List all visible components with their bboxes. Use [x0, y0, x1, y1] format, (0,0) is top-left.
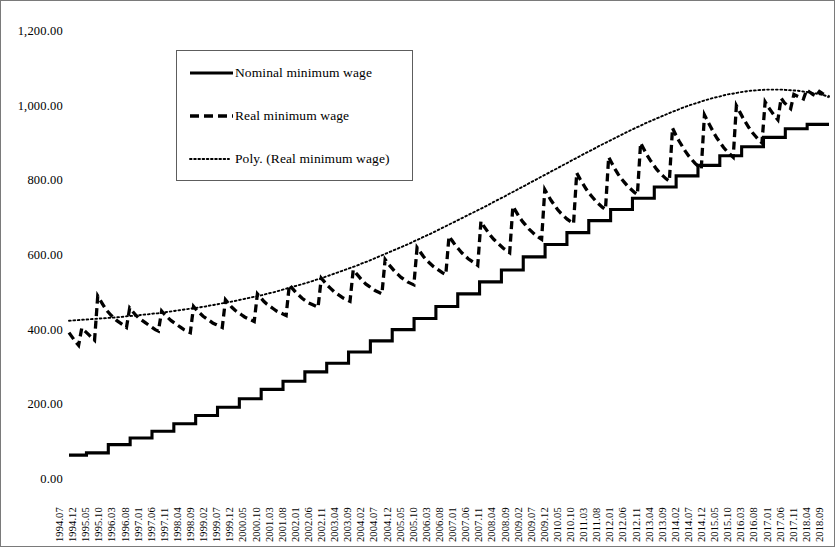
x-axis-tick-label: 2016.03	[735, 507, 746, 542]
x-axis-tick-label: 2002.01	[290, 507, 301, 542]
x-axis-tick-label: 2003.09	[342, 507, 353, 542]
x-axis-tick-label: 2005.05	[395, 507, 406, 542]
legend-label-nominal: Nominal minimum wage	[235, 65, 372, 81]
y-axis-tick-label: 600.00	[9, 248, 63, 263]
chart-plot-area	[1, 1, 835, 547]
x-axis-tick-label: 1998.09	[185, 507, 196, 542]
x-axis-tick-label: 1995.05	[80, 507, 91, 542]
legend-swatch-dotted-line-icon	[189, 152, 235, 166]
y-axis-tick-label: 800.00	[9, 173, 63, 188]
x-axis-tick-label: 2001.08	[277, 507, 288, 542]
x-axis-tick-label: 2005.10	[408, 507, 419, 542]
x-axis-tick-label: 1997.06	[146, 507, 157, 542]
x-axis-tick-label: 1994.07	[54, 507, 65, 542]
x-axis-tick-label: 2015.05	[709, 507, 720, 542]
x-axis-tick-label: 1999.12	[224, 507, 235, 542]
x-axis-tick-label: 2004.07	[368, 507, 379, 542]
x-axis-tick-label: 2014.07	[683, 507, 694, 542]
legend-label-real: Real minimum wage	[235, 108, 349, 124]
x-axis-tick-label: 2002.06	[303, 507, 314, 542]
legend-label-poly: Poly. (Real minimum wage)	[235, 151, 390, 167]
x-axis-tick-label: 2000.10	[251, 507, 262, 542]
x-axis-tick-label: 1995.10	[93, 507, 104, 542]
y-axis-tick-label: 200.00	[9, 397, 63, 412]
x-axis-tick-label: 2018.04	[801, 507, 812, 542]
legend-swatch-solid-line-icon	[189, 66, 235, 80]
x-axis-tick-label: 2008.09	[500, 507, 511, 542]
legend-item-poly: Poly. (Real minimum wage)	[189, 145, 404, 173]
x-axis-tick-label: 2013.09	[657, 507, 668, 542]
x-axis-tick-label: 1998.04	[172, 507, 183, 542]
chart-legend: Nominal minimum wage Real minimum wage P…	[176, 50, 413, 181]
x-axis-tick-label: 2008.04	[486, 507, 497, 542]
chart-container: 0.00200.00400.00600.00800.001,000.001,20…	[0, 0, 835, 547]
x-axis-tick-label: 2003.04	[329, 507, 340, 542]
x-axis-tick-label: 2017.11	[788, 508, 799, 542]
x-axis-tick-label: 2015.10	[722, 507, 733, 542]
x-axis-tick-label: 2016.08	[748, 507, 759, 542]
y-axis-tick-label: 400.00	[9, 322, 63, 337]
x-axis-tick-label: 1996.03	[106, 507, 117, 542]
x-axis-tick-label: 2004.12	[382, 507, 393, 542]
legend-item-nominal: Nominal minimum wage	[189, 59, 404, 87]
x-axis-tick-label: 2009.12	[539, 507, 550, 542]
x-axis-tick-label: 1996.08	[120, 507, 131, 542]
x-axis-tick-label: 2004.02	[355, 507, 366, 542]
x-axis-tick-label: 2009.07	[526, 507, 537, 542]
x-axis-tick-label: 2007.06	[460, 507, 471, 542]
x-axis-tick-label: 2002.11	[316, 508, 327, 542]
y-axis-tick-label: 1,000.00	[9, 98, 63, 113]
x-axis-tick-label: 2014.12	[696, 507, 707, 542]
y-axis-tick-label: 1,200.00	[9, 24, 63, 39]
x-axis-tick-label: 2009.02	[513, 507, 524, 542]
x-axis-tick-label: 2018.09	[814, 507, 825, 542]
x-axis-tick-label: 2012.01	[604, 507, 615, 542]
x-axis-tick-label: 2011.03	[578, 508, 589, 542]
x-axis-tick-label: 1997.11	[159, 508, 170, 542]
x-axis-tick-label: 2000.05	[237, 507, 248, 542]
x-axis-tick-label: 2012.11	[631, 508, 642, 542]
x-axis-tick-label: 2010.05	[552, 507, 563, 542]
x-axis-tick-label: 2012.06	[617, 507, 628, 542]
x-axis-tick-label: 1999.02	[198, 507, 209, 542]
x-axis-tick-label: 1997.01	[133, 507, 144, 542]
x-axis-tick-label: 2007.11	[473, 508, 484, 542]
x-axis-tick-label: 2017.01	[762, 507, 773, 542]
x-axis-tick-label: 1999.07	[211, 507, 222, 542]
x-axis-tick-label: 2017.06	[775, 507, 786, 542]
x-axis-tick-label: 2001.03	[264, 507, 275, 542]
y-axis-tick-label: 0.00	[9, 472, 63, 487]
x-axis-tick-label: 2010.10	[565, 507, 576, 542]
legend-swatch-dashed-line-icon	[189, 109, 235, 123]
x-axis-tick-label: 2011.08	[591, 508, 602, 542]
x-axis-tick-label: 1994.12	[67, 507, 78, 542]
x-axis-tick-label: 2013.04	[644, 507, 655, 542]
x-axis-tick-label: 2006.08	[434, 507, 445, 542]
x-axis-tick-label: 2007.01	[447, 507, 458, 542]
legend-item-real: Real minimum wage	[189, 102, 404, 130]
x-axis-tick-label: 2014.02	[670, 507, 681, 542]
x-axis-tick-label: 2006.03	[421, 507, 432, 542]
